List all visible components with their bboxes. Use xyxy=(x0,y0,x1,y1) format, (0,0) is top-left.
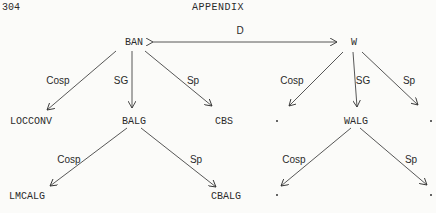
edge-label-w-sg: SG xyxy=(356,75,370,86)
edge-label-balg-sp: Sp xyxy=(190,154,202,165)
node-cbs: CBS xyxy=(215,116,233,127)
node-cbalg: CBALG xyxy=(211,191,241,202)
edge-label-walg-cosp: Cosp xyxy=(282,154,305,165)
node-ban: BAN xyxy=(125,37,143,48)
node-lmcalg: LMCALG xyxy=(9,191,45,202)
node-walg: WALG xyxy=(344,116,368,127)
edge-label-balg-cosp: Cosp xyxy=(57,154,80,165)
node-locconv: LOCCONV xyxy=(10,116,52,127)
diagram-arrows xyxy=(0,0,436,213)
edge-label-w-sp: Sp xyxy=(403,75,415,86)
edge-label-ban-sp: Sp xyxy=(187,75,199,86)
edge-label-walg-sp: Sp xyxy=(405,154,417,165)
node-w: W xyxy=(351,37,357,48)
placeholder-dot xyxy=(430,120,432,122)
node-balg: BALG xyxy=(122,116,146,127)
placeholder-dot xyxy=(276,120,278,122)
arrow-balg-sp xyxy=(141,128,216,187)
placeholder-dot xyxy=(430,194,432,196)
edge-label-ban-sg: SG xyxy=(114,75,128,86)
arrow-ban-sp xyxy=(145,51,212,106)
placeholder-dot xyxy=(276,194,278,196)
edge-label-d: D xyxy=(236,25,243,36)
edge-label-w-cosp: Cosp xyxy=(280,75,303,86)
edge-label-ban-cosp: Cosp xyxy=(46,75,69,86)
